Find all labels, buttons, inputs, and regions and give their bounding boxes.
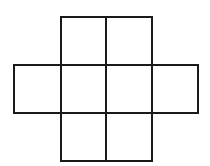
grid-net-diagram xyxy=(0,0,210,166)
grid-cell xyxy=(61,65,106,113)
grid-cell xyxy=(106,65,152,113)
grid-cell xyxy=(152,65,198,113)
grid-cell xyxy=(61,113,106,161)
grid-cell xyxy=(106,17,152,65)
grid-cell xyxy=(61,17,106,65)
grid-cell xyxy=(14,65,61,113)
grid-cell xyxy=(106,113,152,161)
